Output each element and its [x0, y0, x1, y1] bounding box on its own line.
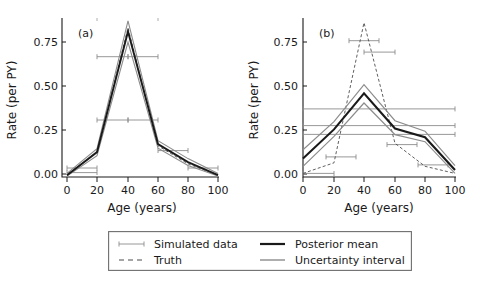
- panel-b-label: (b): [319, 27, 335, 40]
- panel-a-truth-line: [67, 28, 218, 175]
- panel-b-ytick-3: 0.00: [274, 168, 299, 181]
- panel-b-xtick-5: 100: [445, 184, 466, 197]
- panel-b-xlabel: Age (years): [344, 201, 413, 215]
- panel-a-ytick-2: 0.25: [34, 124, 59, 137]
- panel-b-xtick-3: 60: [388, 184, 402, 197]
- panel-b-xtick-2: 40: [357, 184, 371, 197]
- panel-b-axis-spines: [303, 18, 456, 177]
- panel-a-ytick-3: 0.00: [34, 168, 59, 181]
- panel-b-plot-area: [303, 18, 456, 182]
- panel-b-ylabel: Rate (per PY): [247, 61, 261, 140]
- panel-a-label: (a): [78, 27, 93, 40]
- panel-a-svg: Rate (per PY) 0.75 0.50 0.25 0.00: [0, 0, 246, 220]
- panel-a-xlabel: Age (years): [107, 201, 176, 215]
- panel-a-ui-lower-line: [67, 42, 218, 176]
- panel-a-xtick-5: 100: [208, 184, 229, 197]
- panel-b-svg: Rate (per PY) 0.75 0.50 0.25 0.00: [240, 0, 492, 220]
- panel-a-y-ticks: [62, 42, 66, 174]
- legend-label-truth: Truth: [153, 254, 182, 267]
- panel-a-plot-area: [62, 18, 219, 182]
- panel-b-ui-upper-line: [303, 85, 455, 166]
- panel-b-ytick-2: 0.25: [274, 124, 299, 137]
- panel-b-xtick-1: 20: [327, 184, 341, 197]
- panel-a-xtick-3: 60: [151, 184, 165, 197]
- figure-legend: Simulated data Truth Posterior mean Unce…: [108, 231, 412, 271]
- panel-a-top-ticks: [97, 18, 158, 21]
- panel-b-ytick-1: 0.50: [274, 80, 299, 93]
- panel-a-xtick-4: 80: [181, 184, 195, 197]
- panel-a-xtick-0: 0: [64, 184, 71, 197]
- panel-b-ytick-0: 0.75: [274, 36, 299, 49]
- legend-svg: Simulated data Truth Posterior mean Unce…: [108, 231, 412, 271]
- chart-panel-a: Rate (per PY) 0.75 0.50 0.25 0.00: [0, 0, 246, 220]
- panel-a-ylabel: Rate (per PY): [5, 61, 19, 140]
- panel-a-xtick-2: 40: [121, 184, 135, 197]
- figure-root: Rate (per PY) 0.75 0.50 0.25 0.00: [0, 0, 492, 286]
- panel-a-ytick-0: 0.75: [34, 36, 59, 49]
- panel-b-simulated-data: [303, 38, 455, 176]
- panel-a-x-ticks: [67, 177, 218, 182]
- chart-panel-b: Rate (per PY) 0.75 0.50 0.25 0.00: [240, 0, 492, 220]
- panel-a-xtick-1: 20: [90, 184, 104, 197]
- panel-a-axis-spines: [62, 18, 219, 177]
- panel-a-posterior-mean-line: [67, 31, 218, 175]
- panel-b-x-ticks: [303, 177, 455, 182]
- panel-b-xtick-4: 80: [418, 184, 432, 197]
- legend-label-simulated-data: Simulated data: [154, 238, 238, 251]
- panel-b-truth-line: [303, 23, 455, 174]
- panel-b-xtick-0: 0: [300, 184, 307, 197]
- legend-label-posterior-mean: Posterior mean: [295, 238, 378, 251]
- legend-label-uncertainty-interval: Uncertainty interval: [295, 254, 405, 267]
- panel-a-ui-upper-line: [67, 21, 218, 174]
- panel-a-ytick-1: 0.50: [34, 80, 59, 93]
